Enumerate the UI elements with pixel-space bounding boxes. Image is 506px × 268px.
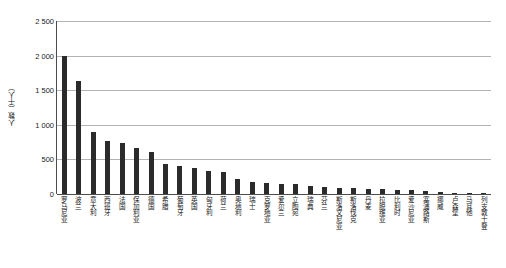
- x-tick-slot: 瑞典: [302, 196, 316, 268]
- x-tick-slot: 爱尔兰: [273, 196, 287, 268]
- bar[interactable]: [206, 171, 211, 194]
- x-tick-slot: 罗马尼亚: [56, 196, 70, 268]
- x-axis-tick-label: 意大利: [88, 196, 95, 216]
- bar-slot: [245, 21, 259, 194]
- x-axis-tick-label: 罗马尼亚: [60, 196, 67, 223]
- x-tick-slot: 西班牙: [99, 196, 113, 268]
- bar[interactable]: [293, 184, 298, 194]
- x-axis-tick-label: 立陶宛: [291, 196, 298, 216]
- x-axis-tick-label: 卢森堡: [450, 196, 457, 216]
- x-tick-slot: 马耳他: [461, 196, 475, 268]
- x-tick-slot: 葡萄牙: [172, 196, 186, 268]
- x-tick-slot: 意大利: [85, 196, 99, 268]
- bar[interactable]: [76, 81, 81, 194]
- bar[interactable]: [105, 141, 110, 194]
- x-tick-slot: 挪威: [432, 196, 446, 268]
- bar-slot: [158, 21, 172, 194]
- x-tick-slot: 塞浦路斯: [418, 196, 432, 268]
- bar-slot: [419, 21, 433, 194]
- bar-slot: [115, 21, 129, 194]
- x-tick-slot: 德国: [143, 196, 157, 268]
- bar[interactable]: [322, 187, 327, 194]
- bar[interactable]: [380, 189, 385, 194]
- x-axis-tick-label: 波兰: [74, 196, 81, 209]
- x-axis-tick-label: 瑞典: [306, 196, 313, 209]
- bar[interactable]: [481, 193, 486, 194]
- bar-chart-figure: 人数（千人） 05001 0001 5002 0002 500 罗马尼亚波兰意大…: [0, 0, 506, 268]
- bar-slot: [448, 21, 462, 194]
- bar[interactable]: [467, 193, 472, 194]
- bar-slot: [462, 21, 476, 194]
- y-axis-tick-label: 0: [20, 190, 54, 199]
- x-axis-tick-label: 拉脱维亚: [378, 196, 385, 223]
- bar[interactable]: [177, 166, 182, 194]
- bar-slot: [303, 21, 317, 194]
- x-axis-tick-label: 法国: [117, 196, 124, 209]
- x-tick-slot: 保加利亚: [128, 196, 142, 268]
- x-axis-tick-label: 比利时: [392, 196, 399, 216]
- x-axis-tick-label: 挪威: [436, 196, 443, 209]
- x-axis-tick-label: 斯洛文尼亚: [334, 196, 341, 230]
- bar[interactable]: [366, 189, 371, 194]
- bar-slot: [361, 21, 375, 194]
- x-axis-tick-label: 列支敦士登: [479, 196, 486, 230]
- bar[interactable]: [120, 143, 125, 194]
- bar[interactable]: [308, 186, 313, 194]
- bar[interactable]: [438, 192, 443, 194]
- x-axis-tick-labels: 罗马尼亚波兰意大利西班牙法国保加利亚德国希腊葡萄牙英国匈牙利荷兰奥地利瑞士克罗地…: [56, 196, 490, 268]
- bar-slot: [346, 21, 360, 194]
- bar-slot: [390, 21, 404, 194]
- x-axis-tick-label: 斯洛伐克: [349, 196, 356, 223]
- y-axis-tick-label: 2 500: [20, 17, 54, 26]
- bar-slot: [129, 21, 143, 194]
- bar[interactable]: [91, 132, 96, 194]
- y-axis-tick-label: 1 000: [20, 120, 54, 129]
- bar[interactable]: [452, 193, 457, 194]
- bar[interactable]: [395, 190, 400, 194]
- bar-slot: [86, 21, 100, 194]
- bar[interactable]: [163, 164, 168, 194]
- bar[interactable]: [409, 190, 414, 194]
- bar-slot: [477, 21, 491, 194]
- bar[interactable]: [235, 179, 240, 194]
- x-tick-slot: 芬兰: [316, 196, 330, 268]
- x-tick-slot: 比利时: [389, 196, 403, 268]
- x-axis-tick-label: 马耳他: [465, 196, 472, 216]
- x-axis-tick-label: 匈牙利: [204, 196, 211, 216]
- bar[interactable]: [192, 168, 197, 194]
- x-axis-tick-label: 西班牙: [103, 196, 110, 216]
- x-axis-tick-label: 德国: [146, 196, 153, 209]
- x-axis-tick-label: 希腊: [161, 196, 168, 209]
- bar-slot: [187, 21, 201, 194]
- x-tick-slot: 克罗地亚: [259, 196, 273, 268]
- x-tick-slot: 瑞士: [244, 196, 258, 268]
- bar-slot: [433, 21, 447, 194]
- y-axis-tick-label: 2 000: [20, 51, 54, 60]
- x-axis-tick-label: 英国: [190, 196, 197, 209]
- x-axis-tick-label: 爱沙尼亚: [407, 196, 414, 223]
- bar[interactable]: [250, 182, 255, 194]
- bar[interactable]: [134, 148, 139, 194]
- bar-slot: [274, 21, 288, 194]
- x-tick-slot: 荷兰: [215, 196, 229, 268]
- x-axis-tick-label: 爱尔兰: [277, 196, 284, 216]
- bar[interactable]: [264, 183, 269, 194]
- bar[interactable]: [149, 152, 154, 194]
- bar[interactable]: [62, 56, 67, 194]
- bar[interactable]: [351, 188, 356, 194]
- y-axis-tick-labels: 05001 0001 5002 0002 500: [20, 0, 54, 268]
- bar[interactable]: [279, 184, 284, 194]
- bar[interactable]: [337, 188, 342, 194]
- x-tick-slot: 波兰: [70, 196, 84, 268]
- x-axis-tick-label: 奥地利: [233, 196, 240, 216]
- bar-slot: [216, 21, 230, 194]
- bar-series: [57, 21, 491, 194]
- bar-slot: [375, 21, 389, 194]
- x-tick-slot: 爱沙尼亚: [403, 196, 417, 268]
- bar[interactable]: [423, 191, 428, 194]
- bar-slot: [404, 21, 418, 194]
- bar-slot: [332, 21, 346, 194]
- x-tick-slot: 英国: [186, 196, 200, 268]
- bar-slot: [317, 21, 331, 194]
- bar[interactable]: [221, 172, 226, 194]
